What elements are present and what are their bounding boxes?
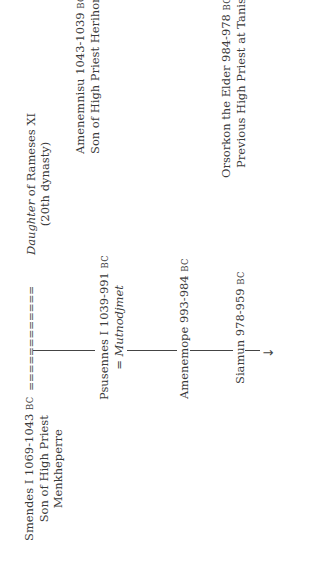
amenemope-name: Amenemope 993-984 [177,275,191,399]
psusennes-era: BC [100,255,110,269]
osorkon-era: BC [222,0,232,10]
osorkon-name: Orsorkon the Elder 984-978 [219,14,233,178]
node-amenemope: Amenemope 993-984 BC [177,258,192,399]
node-siamun: Siamun 978-959 BC [233,271,248,384]
smendes-era: BC [25,396,35,410]
descent-line-3 [190,350,233,351]
continuation-arrow-icon: → [263,346,274,360]
amenemnisu-parentage: Son of High Priest Herihor [88,0,102,154]
smendes-parentage: Son of High Priest [37,396,51,541]
psusennes-name: Psusennes I 1039-991 [97,272,111,400]
amenemnisu-name: Amenemnisu 1043-1039 [73,12,87,154]
osorkon-title: Previous High Priest at Tanis [234,0,248,178]
daughter-dynasty: (20th dynasty) [38,113,52,255]
psusennes-spouse-prefix: = [112,357,126,370]
siamun-name: Siamun 978-959 [233,288,247,384]
descent-line-1 [33,350,95,351]
smendes-name: Smendes I 1069-1043 [22,414,36,541]
descent-line-2 [127,350,177,351]
node-amenemnisu: Amenemnisu 1043-1039 BC Son of High Prie… [73,0,102,154]
node-smendes: Smendes I 1069-1043 BC Son of High Pries… [22,396,65,541]
marriage-link: ============ [25,286,39,391]
amenemnisu-era: BC [76,0,86,9]
daughter-label: Daughter [24,200,38,255]
psusennes-spouse: Mutnodjmet [112,285,126,356]
node-daughter-of-rameses: Daughter of Rameses XI (20th dynasty) [24,113,52,255]
node-psusennes: Psusennes I 1039-991 BC = Mutnodjmet [97,255,126,400]
genealogy-diagram: Smendes I 1069-1043 BC Son of High Pries… [0,0,316,569]
node-osorkon-the-elder: Orsorkon the Elder 984-978 BC Previous H… [219,0,248,178]
siamun-era: BC [236,271,246,285]
amenemope-era: BC [180,258,190,272]
smendes-parent-name: Menkheperre [51,396,65,541]
daughter-rest: of Rameses XI [24,113,38,200]
